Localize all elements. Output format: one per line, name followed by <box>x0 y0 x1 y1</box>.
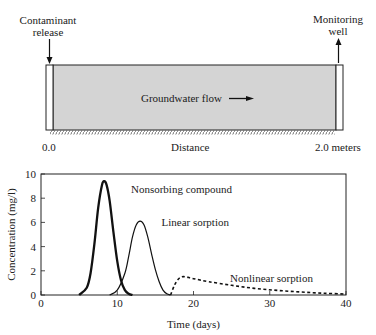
series-nonsorbing-compound <box>79 181 132 295</box>
y-tick-label: 6 <box>31 216 37 228</box>
x-tick-label: 30 <box>264 297 276 309</box>
x-tick-label: 10 <box>112 297 124 309</box>
x-axis-title: Time (days) <box>167 318 220 331</box>
breakthrough-chart: 0102030400246810Time (days)Concentration… <box>0 0 376 335</box>
y-axis-title: Concentration (mg/l) <box>5 188 18 281</box>
annotation-nonsorbing-compound: Nonsorbing compound <box>131 183 233 195</box>
y-tick-label: 10 <box>25 168 37 180</box>
series-linear-sorption <box>110 221 171 295</box>
y-tick-label: 2 <box>31 265 37 277</box>
x-tick-label: 40 <box>341 297 353 309</box>
y-tick-label: 0 <box>31 289 37 301</box>
y-tick-label: 4 <box>31 241 37 253</box>
annotation-nonlinear-sorption: Nonlinear sorption <box>230 272 313 284</box>
annotation-linear-sorption: Linear sorption <box>161 216 229 228</box>
x-tick-label: 0 <box>38 297 44 309</box>
y-tick-label: 8 <box>31 192 37 204</box>
x-tick-label: 20 <box>188 297 200 309</box>
